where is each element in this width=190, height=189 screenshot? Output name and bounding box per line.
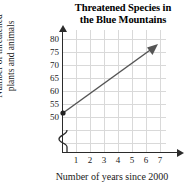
x-tick-label: 3 [97,156,111,165]
gridline-horizontal [62,117,166,118]
x-tick-label: 6 [139,156,153,165]
y-tick-label: 65 [37,74,59,83]
chart-figure: Threatened Species in the Blue Mountains… [0,0,190,189]
gridline-horizontal [62,104,166,105]
x-axis-label: Number of years since 2000 [36,171,188,183]
y-tick-label: 75 [37,48,59,57]
y-tick-labels: 80 75 70 65 60 55 50 [36,30,59,152]
gridline-horizontal [62,39,166,40]
y-tick-label: 55 [37,100,59,109]
gridline-horizontal [62,130,166,131]
plot-area [62,30,166,152]
y-axis-label-line-1: Number of threatened [0,0,6,112]
gridline-horizontal [62,65,166,66]
gridline-horizontal [62,52,166,53]
y-tick-label: 60 [37,87,59,96]
y-axis-label: Number of threatened plants and animals [0,0,30,112]
y-axis-arrow-icon [59,25,67,32]
x-tick-label: 4 [111,156,125,165]
y-tick-label: 80 [37,35,59,44]
y-axis-label-line-2: plants and animals [6,0,18,112]
gridline-horizontal [62,143,166,144]
gridline-horizontal [62,91,166,92]
x-tick-label: 5 [125,156,139,165]
gridline-horizontal [62,78,166,79]
x-tick-label: 1 [69,156,83,165]
y-tick-label: 50 [37,113,59,122]
y-tick-label: 70 [37,61,59,70]
chart-title-line-1: Threatened Species in [56,2,190,14]
chart-title-line-2: the Blue Mountains [56,14,190,26]
chart-title: Threatened Species in the Blue Mountains [56,2,190,26]
x-tick-label: 2 [83,156,97,165]
x-axis-line [62,152,178,153]
x-tick-labels: 1 2 3 4 5 6 7 [62,156,182,168]
x-tick-label: 7 [153,156,167,165]
